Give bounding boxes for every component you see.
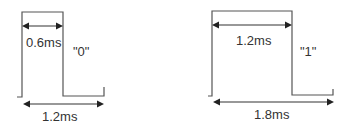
- bit-zero-period-arrow: [23, 101, 104, 108]
- bit-one-high-duration-label: 1.2ms: [236, 33, 272, 48]
- bit-one-diagram: 1.2ms "1" 1.8ms: [208, 11, 334, 122]
- bit-zero-period-label: 1.2ms: [42, 109, 78, 124]
- bit-zero-diagram: 0.6ms "0" 1.2ms: [17, 12, 104, 124]
- bit-one-period-label: 1.8ms: [254, 107, 290, 122]
- bit-zero-high-duration-arrow: [22, 23, 63, 30]
- bit-one-high-duration-arrow: [212, 22, 292, 29]
- bit-one-period-arrow: [213, 99, 334, 106]
- bit-zero-label: "0": [73, 44, 90, 59]
- bit-zero-high-duration-label: 0.6ms: [26, 35, 62, 50]
- bit-one-label: "1": [300, 44, 317, 59]
- pulse-timing-diagram: 0.6ms "0" 1.2ms 1.2ms "1" 1.8ms: [0, 0, 352, 125]
